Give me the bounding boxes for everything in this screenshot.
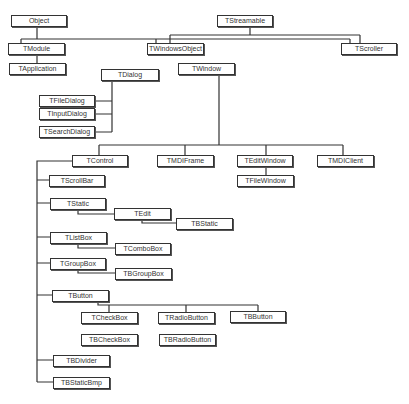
node-tfiledialog: TFileDialog bbox=[39, 95, 95, 107]
node-tbgroupbox: TBGroupBox bbox=[115, 268, 172, 280]
node-tmdiclient: TMDIClient bbox=[317, 155, 374, 167]
node-object: Object bbox=[11, 15, 67, 27]
node-tcheckbox: TCheckBox bbox=[81, 312, 138, 324]
node-tedit: TEdit bbox=[114, 208, 171, 220]
node-tmodule: TModule bbox=[8, 43, 65, 55]
node-tmdiframe: TMDIFrame bbox=[157, 155, 214, 167]
node-tinputdialog: TInputDialog bbox=[39, 108, 95, 120]
node-tcombobox: TComboBox bbox=[115, 243, 171, 255]
node-teditwindow: TEditWindow bbox=[237, 155, 293, 167]
node-tcontrol: TControl bbox=[72, 155, 128, 167]
node-tapplication: TApplication bbox=[9, 63, 66, 75]
node-tstatic: TStatic bbox=[50, 198, 106, 210]
node-tbstaticbmp: TBStaticBmp bbox=[53, 377, 110, 389]
node-tbstatic: TBStatic bbox=[176, 218, 233, 230]
node-tradiobutton: TRadioButton bbox=[158, 312, 215, 324]
node-tscroller: TScroller bbox=[341, 43, 397, 55]
node-tbbutton: TBButton bbox=[230, 311, 286, 323]
node-tfilewindow: TFileWindow bbox=[237, 175, 294, 187]
node-tsearchdialog: TSearchDialog bbox=[39, 126, 95, 138]
node-tstreamable: TStreamable bbox=[217, 15, 273, 27]
node-tbcheckbox: TBCheckBox bbox=[81, 334, 138, 346]
node-tscrollbar: TScrollBar bbox=[49, 175, 105, 187]
class-hierarchy-diagram: Object TStreamable TModule TWindowsObjec… bbox=[0, 0, 409, 404]
node-tlistbox: TListBox bbox=[50, 232, 107, 244]
node-tbradiobutton: TBRadioButton bbox=[159, 334, 216, 346]
node-twindow: TWindow bbox=[178, 63, 235, 75]
node-tbutton: TButton bbox=[52, 290, 109, 302]
node-twindowsobject: TWindowsObject bbox=[147, 43, 204, 55]
node-tdialog: TDialog bbox=[101, 69, 159, 81]
node-tgroupbox: TGroupBox bbox=[50, 258, 106, 270]
node-tbdivider: TBDivider bbox=[53, 355, 110, 367]
